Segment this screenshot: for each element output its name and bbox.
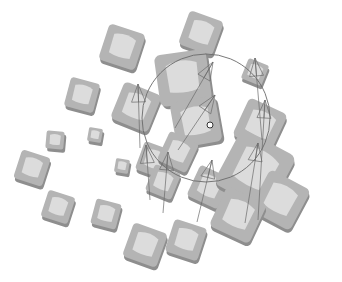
cushion-tile xyxy=(86,127,105,147)
cushion-tile xyxy=(89,198,124,233)
cushion-tile xyxy=(63,77,102,117)
cushion-tile xyxy=(12,149,53,190)
scene-canvas xyxy=(0,0,342,282)
cursor-icon xyxy=(207,122,213,128)
cushion-tile xyxy=(39,189,77,228)
cushion-tile xyxy=(45,130,67,153)
render-viewport xyxy=(0,0,342,282)
cushion-tile xyxy=(97,23,148,74)
cushion-tiles xyxy=(12,10,313,272)
cushion-tile xyxy=(121,222,170,272)
cushion-tile xyxy=(113,158,132,178)
cushion-tile xyxy=(164,219,210,265)
